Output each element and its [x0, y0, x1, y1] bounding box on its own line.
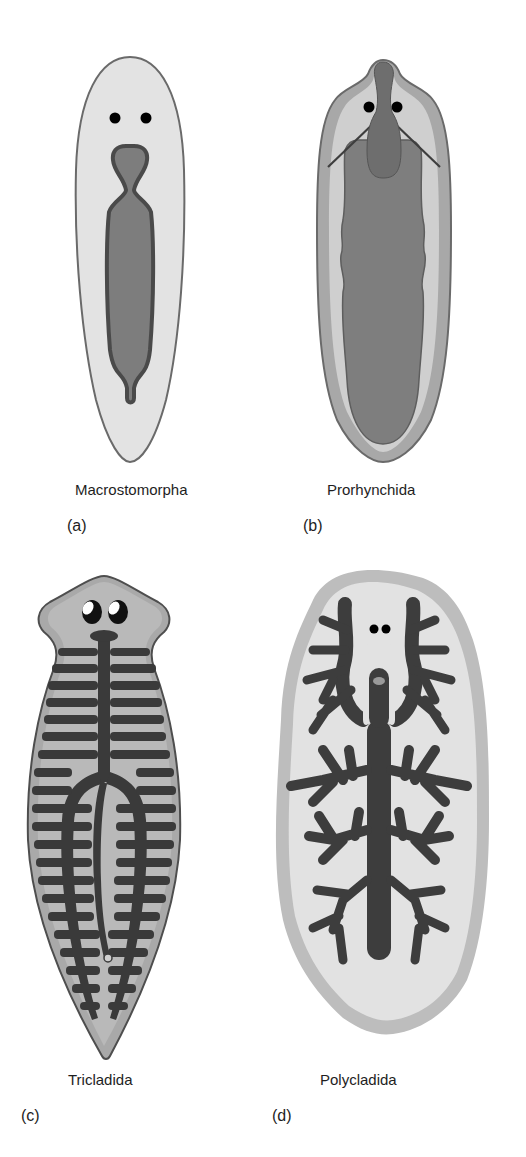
eye-right-icon	[392, 102, 403, 113]
panel-d-letter: (d)	[272, 1107, 292, 1125]
panel-a-name: Macrostomorpha	[75, 481, 188, 498]
eye-left-icon	[110, 113, 121, 124]
panel-c-tricladida: Tricladida (c)	[0, 540, 263, 1157]
panel-a-letter: (a)	[67, 517, 87, 535]
eye-right-icon	[382, 625, 391, 634]
eye-left-icon	[364, 102, 375, 113]
panel-c-name: Tricladida	[68, 1071, 132, 1088]
panel-d-polycladida: Polycladida (d)	[263, 540, 526, 1157]
polycladida-illustration	[263, 540, 526, 1157]
panel-c-letter: (c)	[21, 1107, 40, 1125]
panel-a-macrostomorpha: Macrostomorpha (a)	[0, 0, 263, 540]
panel-b-name: Prorhynchida	[327, 481, 415, 498]
eye-right-icon	[141, 113, 152, 124]
macrostomorpha-illustration	[0, 0, 263, 540]
panel-b-prorhynchida: Prorhynchida (b)	[263, 0, 526, 540]
intestine	[341, 140, 426, 444]
panel-d-name: Polycladida	[320, 1071, 397, 1088]
tricladida-illustration	[0, 540, 263, 1157]
prorhynchida-illustration	[263, 0, 526, 540]
panel-b-letter: (b)	[303, 517, 323, 535]
eye-left-icon	[370, 625, 379, 634]
pharynx-mouth	[104, 954, 112, 962]
mouth	[373, 677, 385, 685]
